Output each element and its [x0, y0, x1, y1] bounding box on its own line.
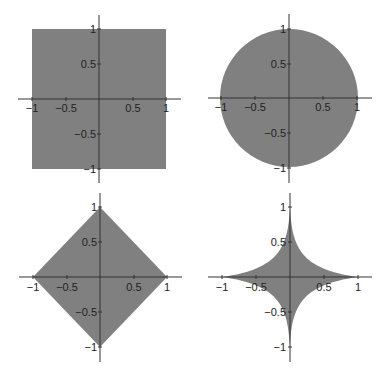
x-tick-label: 1 — [164, 281, 170, 293]
x-tick-label: 0.5 — [315, 101, 330, 113]
diamond-plot-svg: −1 −0.5 0.5 1 1 0.5 −0.5 −1 — [0, 187, 192, 374]
y-tick-label: 0.5 — [271, 236, 286, 248]
astroid-plot-svg: −1 −0.5 0.5 1 1 0.5 −0.5 −1 — [192, 187, 385, 374]
x-tick-label: 0.5 — [125, 102, 140, 114]
x-tick-label: −0.5 — [244, 101, 266, 113]
plot-circle: −1 −0.5 0.5 1 1 0.5 −0.5 −1 — [192, 0, 385, 187]
square-plot-svg: −1 −0.5 0.5 1 1 0.5 −0.5 −1 — [0, 0, 192, 187]
y-tick-label: 0.5 — [81, 58, 96, 70]
plot-diamond: −1 −0.5 0.5 1 1 0.5 −0.5 −1 — [0, 187, 192, 374]
plot-astroid: −1 −0.5 0.5 1 1 0.5 −0.5 −1 — [192, 187, 385, 374]
y-tick-label: 1 — [91, 201, 97, 213]
x-tick-label: −1 — [216, 281, 229, 293]
x-tick-label: −0.5 — [55, 102, 77, 114]
circle-plot-svg: −1 −0.5 0.5 1 1 0.5 −0.5 −1 — [192, 0, 385, 187]
y-tick-label: 1 — [90, 23, 96, 35]
y-tick-label: −1 — [83, 163, 96, 175]
x-tick-label: 1 — [163, 102, 169, 114]
y-tick-label: 0.5 — [82, 236, 97, 248]
y-tick-label: −1 — [84, 341, 97, 353]
x-tick-label: 0.5 — [126, 281, 141, 293]
x-tick-label: 0.5 — [316, 281, 331, 293]
x-tick-label: −0.5 — [245, 281, 267, 293]
x-tick-label: 1 — [354, 101, 360, 113]
x-tick-label: −0.5 — [56, 281, 78, 293]
x-tick-label: −1 — [27, 281, 40, 293]
y-tick-label: −0.5 — [74, 128, 96, 140]
x-tick-label: −1 — [26, 102, 39, 114]
y-tick-label: −1 — [273, 341, 286, 353]
y-tick-label: −0.5 — [264, 306, 286, 318]
y-tick-label: 0.5 — [271, 58, 286, 70]
x-tick-label: −1 — [215, 101, 228, 113]
y-tick-label: 1 — [280, 23, 286, 35]
y-tick-label: −0.5 — [264, 127, 286, 139]
plot-square: −1 −0.5 0.5 1 1 0.5 −0.5 −1 — [0, 0, 192, 187]
y-tick-label: −1 — [273, 162, 286, 174]
y-tick-label: 1 — [280, 201, 286, 213]
y-tick-label: −0.5 — [75, 306, 97, 318]
x-tick-label: 1 — [355, 281, 361, 293]
